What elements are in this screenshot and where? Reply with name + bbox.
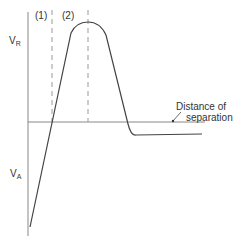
vr-label-sub: R <box>16 40 21 47</box>
label-pointer <box>173 112 181 121</box>
potential-energy-diagram: (1) (2) VR VA Distance of separation <box>0 0 249 241</box>
axis-label-line1: Distance of <box>176 101 226 112</box>
va-label-sub: A <box>17 173 22 180</box>
va-label: VA <box>10 168 22 180</box>
potential-curve <box>30 22 202 227</box>
pointer-dot <box>172 120 174 122</box>
region-1-label: (1) <box>35 10 47 21</box>
vr-label: VR <box>9 35 21 47</box>
axis-label-line2: separation <box>186 112 233 123</box>
region-2-label: (2) <box>62 10 74 21</box>
